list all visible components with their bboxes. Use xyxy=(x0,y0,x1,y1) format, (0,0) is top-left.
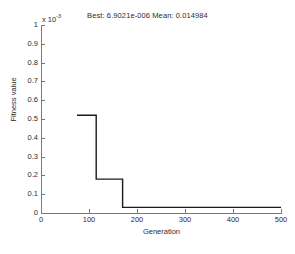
x-tick-mark xyxy=(281,209,282,213)
y-tick-mark xyxy=(41,25,45,26)
x-tick-label: 0 xyxy=(21,215,61,224)
y-tick-mark xyxy=(41,100,45,101)
y-tick-label: 0.2 xyxy=(0,170,38,179)
y-tick-mark xyxy=(41,157,45,158)
fitness-plot-figure: Best: 6.9021e-006 Mean: 0.014984 x 10-3 … xyxy=(0,0,295,254)
x-tick-label: 300 xyxy=(165,215,205,224)
y-tick-label: 0.1 xyxy=(0,189,38,198)
y-tick-mark xyxy=(41,81,45,82)
x-tick-mark xyxy=(233,209,234,213)
y-tick-mark xyxy=(41,44,45,45)
y-tick-mark xyxy=(41,194,45,195)
x-tick-mark xyxy=(137,209,138,213)
x-tick-mark xyxy=(185,209,186,213)
x-axis-line xyxy=(41,213,282,214)
y-tick-label: 0.5 xyxy=(0,114,38,123)
y-tick-mark xyxy=(41,119,45,120)
y-tick-label: 1 xyxy=(0,20,38,29)
x-tick-label: 100 xyxy=(69,215,109,224)
y-exponent-base: x 10 xyxy=(42,15,56,24)
x-tick-label: 200 xyxy=(117,215,157,224)
plot-area xyxy=(41,25,281,213)
y-tick-label: 0.6 xyxy=(0,95,38,104)
y-tick-label: 0.9 xyxy=(0,39,38,48)
y-tick-label: 0.3 xyxy=(0,152,38,161)
y-tick-label: 0.4 xyxy=(0,133,38,142)
y-axis-label: Fitness value xyxy=(9,55,18,145)
y-tick-mark xyxy=(41,138,45,139)
y-tick-label: 0.7 xyxy=(0,76,38,85)
y-axis-exponent-multiplier: x 10-3 xyxy=(42,13,61,24)
x-tick-label: 500 xyxy=(261,215,295,224)
x-tick-mark xyxy=(89,209,90,213)
y-tick-mark xyxy=(41,175,45,176)
y-exponent-power: -3 xyxy=(56,13,61,19)
x-tick-label: 400 xyxy=(213,215,253,224)
x-tick-mark xyxy=(41,209,42,213)
y-tick-label: 0.8 xyxy=(0,58,38,67)
x-axis-label: Generation xyxy=(41,227,282,236)
y-tick-mark xyxy=(41,213,45,214)
y-tick-mark xyxy=(41,63,45,64)
